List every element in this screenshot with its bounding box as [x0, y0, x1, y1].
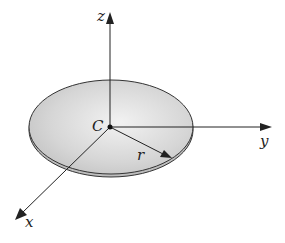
y-arrowhead-icon [260, 123, 272, 131]
y-axis-label: y [259, 132, 269, 150]
center-label: C [92, 117, 104, 135]
z-arrowhead-icon [106, 12, 114, 24]
center-point [108, 125, 113, 130]
radius-label: r [137, 146, 145, 164]
z-axis-label: z [96, 7, 105, 25]
disc-axes-diagram: z y x C r [0, 0, 285, 243]
x-axis-label: x [25, 213, 34, 231]
